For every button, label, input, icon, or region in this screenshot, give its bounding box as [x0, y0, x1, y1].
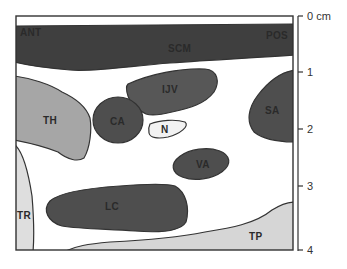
scale-tick-0: 0 cm [307, 10, 331, 22]
label-ijv: IJV [162, 84, 178, 95]
scale-tick-2: 2 [307, 123, 313, 135]
label-pos: POS [266, 30, 288, 41]
label-tp: TP [249, 231, 262, 242]
scm-region [14, 24, 295, 70]
tr-region [14, 144, 34, 252]
label-lc: LC [105, 201, 119, 212]
scale-tick-3: 3 [307, 180, 313, 192]
depth-scale: 0 cm 1 2 3 4 [298, 10, 331, 256]
label-th: TH [43, 115, 57, 126]
label-n: N [161, 124, 169, 135]
ultrasound-diagram: ANT POS SCM IJV CA N SA TH VA LC TR TP 0… [0, 0, 347, 269]
label-scm: SCM [168, 43, 191, 54]
scale-tick-1: 1 [307, 66, 313, 78]
label-sa: SA [265, 105, 280, 116]
label-ant: ANT [20, 27, 41, 38]
label-va: VA [196, 159, 210, 170]
scale-tick-4: 4 [307, 244, 313, 256]
label-ca: CA [110, 116, 125, 127]
label-tr: TR [17, 210, 31, 221]
